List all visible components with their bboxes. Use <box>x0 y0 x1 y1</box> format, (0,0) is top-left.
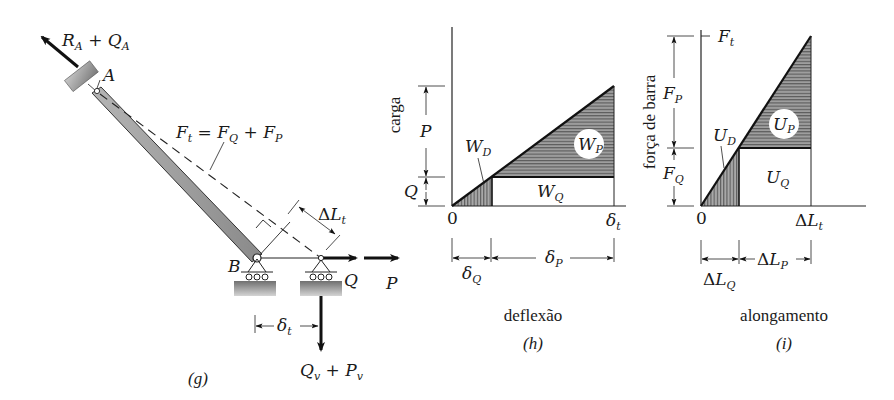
reaction-label-A: RA + QA <box>61 30 130 53</box>
force-elongation-chart: Ft UP UQ UD FP FQ força de barra 0 ΔLt Δ… <box>640 26 866 353</box>
y-axis-label: carga <box>385 96 404 133</box>
area-WD-label: WD <box>465 136 491 159</box>
joint-label-A: A <box>101 65 115 85</box>
x-axis-label-i: alongamento <box>740 306 828 325</box>
vertical-reaction-label: Qv + Pv <box>300 360 364 383</box>
load-deflection-chart: WP WQ WD P Q carga 0 δt δQ δP deflexão (… <box>385 27 626 353</box>
load-label-P: P <box>385 273 398 293</box>
figure-canvas: RA + QA A Ft = FQ + FP ΔLt Q P <box>0 0 894 400</box>
dim-label-FP: FP <box>662 83 683 106</box>
dim-label-P: P <box>419 121 432 141</box>
pin-A <box>94 88 99 93</box>
elongation-label: ΔLt <box>318 204 347 227</box>
origin-label-i: 0 <box>696 208 707 228</box>
x-axis-label: deflexão <box>504 306 563 325</box>
displacement-label: δt <box>277 315 292 338</box>
top-label-Ft: Ft <box>717 26 735 49</box>
dim-label-LP: ΔLP <box>757 249 789 272</box>
x-end-label-i: ΔLt <box>795 210 824 233</box>
caption-h: (h) <box>523 334 543 353</box>
joint-label-B: B <box>227 256 241 276</box>
bar-force-label: Ft = FQ + FP <box>175 122 283 145</box>
bar-AB <box>92 87 262 262</box>
deformed-bar-line <box>100 94 321 258</box>
truss-diagram: RA + QA A Ft = FQ + FP ΔLt Q P <box>42 30 398 388</box>
y-axis-label-i: força de barra <box>640 74 659 169</box>
roller-support-deflected <box>300 255 342 296</box>
wall-support-A <box>64 61 98 92</box>
x-end-label: δt <box>606 210 621 233</box>
area-UD-label: UD <box>713 125 736 148</box>
dim-label-dP: δP <box>545 247 563 270</box>
dim-label-LQ: ΔLQ <box>703 269 736 292</box>
caption-g: (g) <box>188 369 208 388</box>
dim-label-dQ: δQ <box>462 263 481 286</box>
load-label-Q: Q <box>344 270 358 290</box>
dim-label-Q: Q <box>404 181 418 201</box>
dim-label-FQ: FQ <box>662 163 684 186</box>
origin-label: 0 <box>447 208 458 228</box>
caption-i: (i) <box>776 334 792 353</box>
